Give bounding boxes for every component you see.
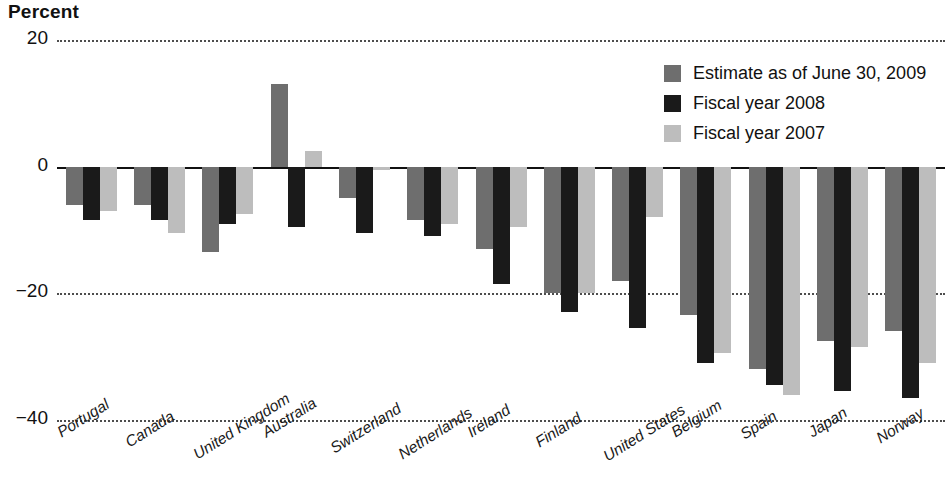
bar — [151, 167, 168, 221]
bar — [612, 167, 629, 281]
legend-item: Fiscal year 2007 — [664, 118, 926, 148]
bar — [510, 167, 527, 227]
percent-bar-chart: Percent 200−20−40 PortugalCanadaUnited K… — [0, 0, 952, 502]
bar — [271, 84, 288, 166]
chart-legend: Estimate as of June 30, 2009Fiscal year … — [664, 58, 926, 148]
legend-swatch-icon — [664, 125, 681, 142]
bar — [339, 167, 356, 199]
bar — [493, 167, 510, 284]
bar — [697, 167, 714, 363]
bar — [834, 167, 851, 392]
bar — [100, 167, 117, 211]
bar — [766, 167, 783, 386]
y-tick-label-0: 0 — [4, 154, 48, 176]
bar — [83, 167, 100, 221]
bar — [219, 167, 236, 224]
bar — [168, 167, 185, 234]
bar — [885, 167, 902, 332]
bar — [680, 167, 697, 316]
legend-label: Fiscal year 2008 — [693, 93, 825, 114]
bar — [714, 167, 731, 354]
bar — [305, 151, 322, 167]
y-tick-label--40: −40 — [4, 407, 48, 429]
bar — [817, 167, 834, 341]
bar — [919, 167, 936, 363]
bar — [578, 167, 595, 294]
bar — [373, 167, 390, 170]
gridline-20 — [57, 40, 945, 42]
bar — [783, 167, 800, 395]
legend-item: Fiscal year 2008 — [664, 88, 926, 118]
y-tick-label-20: 20 — [4, 27, 48, 49]
bar — [288, 167, 305, 227]
bar — [851, 167, 868, 348]
bar — [134, 167, 151, 205]
legend-swatch-icon — [664, 95, 681, 112]
legend-swatch-icon — [664, 65, 681, 82]
bar — [66, 167, 83, 205]
bar — [749, 167, 766, 370]
bar — [476, 167, 493, 249]
bar — [902, 167, 919, 398]
bar — [424, 167, 441, 237]
bar — [236, 167, 253, 215]
legend-label: Fiscal year 2007 — [693, 123, 825, 144]
bar — [202, 167, 219, 253]
legend-label: Estimate as of June 30, 2009 — [693, 63, 926, 84]
bar — [629, 167, 646, 329]
bar — [544, 167, 561, 294]
legend-item: Estimate as of June 30, 2009 — [664, 58, 926, 88]
bar — [561, 167, 578, 313]
gridline--20 — [57, 293, 945, 295]
bar — [646, 167, 663, 218]
bar — [407, 167, 424, 221]
chart-title: Percent — [8, 1, 79, 23]
bar — [356, 167, 373, 234]
y-tick-label--20: −20 — [4, 280, 48, 302]
bar — [441, 167, 458, 224]
